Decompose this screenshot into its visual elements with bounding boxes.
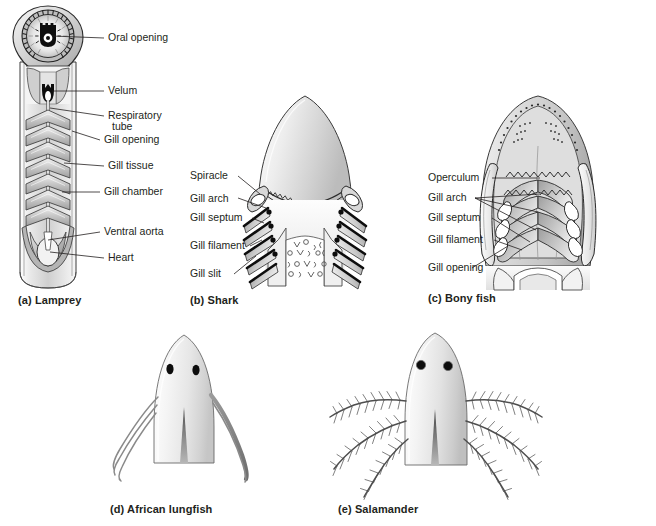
label-heart: Heart [108, 252, 134, 264]
caption-african-lungfish: (d) African lungfish [110, 503, 212, 515]
label-gill-septum: Gill septum [190, 212, 243, 224]
label-oral-opening: Oral opening [108, 32, 168, 44]
leader-gill-filament [494, 240, 522, 250]
label-gill-chamber: Gill chamber [104, 186, 163, 198]
label-respiratory-tube-line2: tube [112, 121, 132, 133]
label-gill-tissue: Gill tissue [108, 160, 154, 172]
label-gill-septum: Gill septum [428, 212, 481, 224]
label-velum: Velum [108, 85, 137, 97]
label-gill-arch: Gill arch [190, 193, 229, 205]
label-gill-slit: Gill slit [190, 268, 221, 280]
label-operculum: Operculum [428, 172, 479, 184]
leader-gill-slit [234, 256, 256, 274]
leader-heart [50, 252, 104, 258]
leader-gill-arch-1 [475, 198, 538, 212]
leader-gill-filament [250, 240, 262, 246]
lamprey-leader-lines [0, 0, 200, 300]
label-gill-opening: Gill opening [104, 134, 159, 146]
label-ventral-aorta: Ventral aorta [104, 226, 164, 238]
leader-spiracle [238, 176, 260, 194]
leader-gill-septum [492, 218, 530, 242]
caption-bony-fish: (c) Bony fish [428, 292, 496, 304]
leader-gill-arch [238, 198, 266, 208]
leader-ventral-aorta [48, 232, 100, 240]
panel-lamprey: Oral opening Velum Respiratory tube Gill… [0, 0, 200, 300]
leader-gill-tissue [64, 163, 104, 166]
salamander-illustration [330, 325, 620, 500]
salamander-external-gills-left [330, 392, 408, 500]
caption-shark: (b) Shark [190, 294, 239, 306]
lungfish-external-gills-left [113, 397, 158, 481]
leader-respiratory-tube [50, 108, 104, 116]
leader-gill-arch-3 [475, 198, 536, 230]
salamander-external-gills-right [464, 392, 542, 500]
panel-shark: Spiracle Gill arch Gill septum Gill fila… [190, 90, 420, 315]
leader-gill-arch-2 [475, 194, 540, 198]
lungfish-illustration [100, 325, 350, 500]
panel-african-lungfish: (d) African lungfish [100, 325, 350, 525]
leader-oral-opening [52, 36, 104, 38]
label-spiracle: Spiracle [190, 170, 228, 182]
leader-gill-septum [252, 218, 264, 223]
lungfish-external-gills-right-thin [213, 403, 246, 482]
label-gill-filament: Gill filament [190, 240, 245, 252]
label-gill-arch: Gill arch [428, 192, 467, 204]
panel-bony-fish: Operculum Gill arch Gill septum Gill fil… [420, 90, 656, 315]
label-gill-opening: Gill opening [428, 262, 483, 274]
label-gill-filament: Gill filament [428, 234, 483, 246]
caption-lamprey: (a) Lamprey [18, 294, 81, 306]
panel-salamander: (e) Salamander [330, 325, 620, 525]
caption-salamander: (e) Salamander [338, 503, 418, 515]
leader-gill-opening [72, 131, 100, 140]
